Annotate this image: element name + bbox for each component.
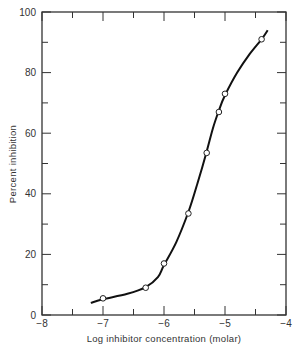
y-tick-label: 40 <box>25 188 37 199</box>
y-tick-label: 100 <box>19 7 36 18</box>
y-tick-label: 60 <box>25 128 37 139</box>
x-tick-label: −6 <box>158 318 170 329</box>
y-tick-label: 80 <box>25 67 37 78</box>
x-tick-label: −5 <box>219 318 231 329</box>
data-point-marker <box>216 109 222 115</box>
x-tick-labels: −8−7−6−5−4 <box>36 318 292 329</box>
data-point-marker <box>259 36 265 42</box>
data-point-marker <box>143 285 149 291</box>
data-point-marker <box>204 150 210 156</box>
y-tick-label: 0 <box>30 310 36 321</box>
x-axis-title: Log inhibitor concentration (molar) <box>87 333 242 344</box>
data-point-marker <box>100 296 106 302</box>
data-point-marker <box>161 261 167 267</box>
data-point-marker <box>186 211 192 217</box>
y-tick-labels: 020406080100 <box>19 7 36 321</box>
data-points <box>100 36 264 301</box>
plot-border <box>42 12 286 315</box>
y-axis-title: Percent inhibition <box>7 125 18 203</box>
fitted-curve <box>91 30 268 303</box>
plot-frame <box>42 12 286 315</box>
y-tick-label: 20 <box>25 249 37 260</box>
axis-ticks <box>42 12 286 315</box>
x-tick-label: −4 <box>280 318 292 329</box>
data-point-marker <box>222 91 228 97</box>
x-tick-label: −8 <box>36 318 48 329</box>
dose-response-chart: −8−7−6−5−4 020406080100 Log inhibitor co… <box>0 0 298 353</box>
x-tick-label: −7 <box>97 318 109 329</box>
